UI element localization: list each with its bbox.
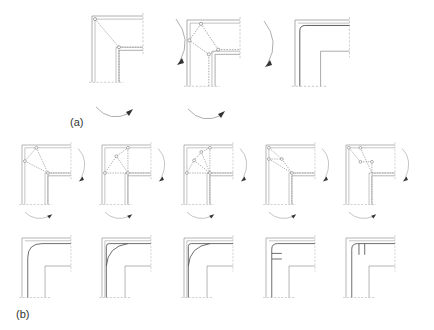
- panel-a1-arrows: [96, 19, 185, 117]
- panel-b5-reinforcement: [343, 235, 395, 297]
- panel-b5: [343, 142, 409, 218]
- panel-a3: [292, 17, 350, 86]
- panel-a2-arrows: [188, 21, 273, 119]
- panel-b1: [19, 142, 85, 218]
- figure-label-a: (a): [70, 116, 83, 128]
- panel-b4-reinforcement: [263, 235, 315, 297]
- panel-b3: [181, 142, 247, 218]
- panel-b3-reinforcement: [181, 235, 233, 297]
- panel-a1: [89, 13, 143, 82]
- panel-b4: [263, 142, 329, 218]
- panel-b2: [99, 142, 165, 218]
- panel-b2-reinforcement: [99, 235, 151, 297]
- figure-label-b: (b): [16, 308, 29, 320]
- panel-a2: [184, 17, 240, 86]
- frame-corner-diagram: [0, 0, 434, 330]
- panel-b1-reinforcement: [19, 235, 71, 297]
